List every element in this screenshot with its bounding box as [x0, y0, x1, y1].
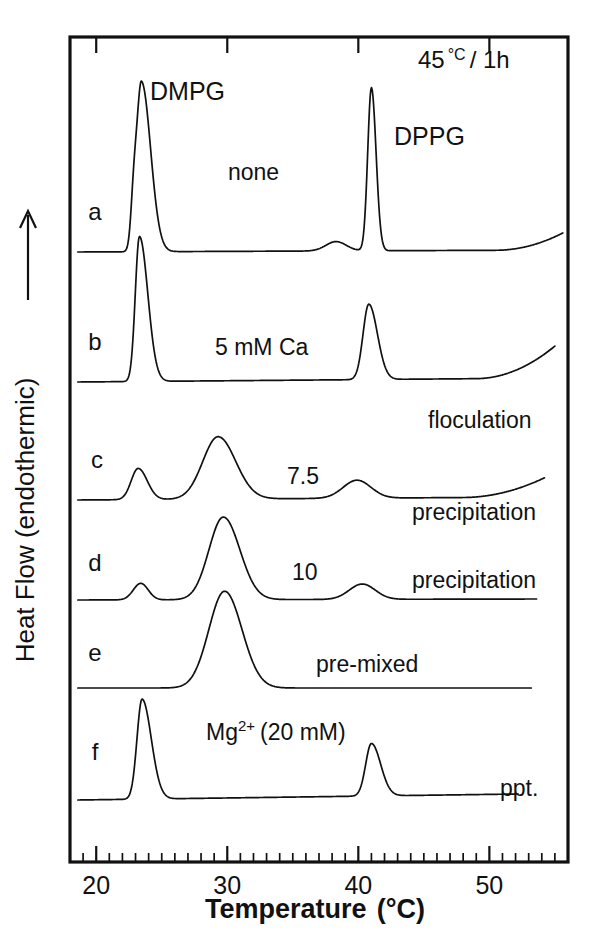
- curve-label-b: b: [88, 328, 101, 355]
- x-axis-title-main: Temperature: [205, 894, 367, 924]
- curve-label-d: d: [88, 549, 101, 576]
- y-axis-title-group: Heat Flow (endothermic): [10, 211, 40, 662]
- curve-label-f: f: [92, 738, 99, 765]
- header-note-value: 45: [418, 46, 445, 73]
- species-label-dppg: DPPG: [394, 122, 465, 150]
- species-label-dmpg: DMPG: [150, 77, 225, 105]
- annotation-pre-mixed: pre-mixed: [316, 651, 418, 677]
- annotation-7-5: 7.5: [287, 463, 319, 489]
- thermogram-traces: [78, 81, 563, 800]
- annotation-ppt: ppt.: [500, 775, 538, 801]
- curve-label-e: e: [88, 639, 101, 666]
- annotation-5mm-ca: 5 mM Ca: [215, 334, 309, 360]
- x-axis-title-unit: (°C): [377, 894, 425, 924]
- header-note-degree-sup: °C: [448, 46, 466, 63]
- annotation-precipitation-c: precipitation: [412, 499, 536, 525]
- y-axis-arrow-icon: [20, 211, 36, 300]
- header-note: 45°C/ 1h: [418, 46, 510, 73]
- x-axis-ticks-bottom: [83, 846, 555, 862]
- dsc-figure: 20304050 45°C/ 1h DMPG DPPG a b c d e f …: [0, 0, 596, 931]
- x-tick-label-20: 20: [82, 871, 110, 899]
- trace-b: [78, 236, 555, 382]
- annotation-magnesium: Mg2+(20 mM): [206, 717, 346, 745]
- annotation-floculation: floculation: [428, 407, 532, 433]
- annotation-10: 10: [292, 559, 318, 585]
- x-axis-title: Temperature(°C): [205, 894, 425, 924]
- annotation-magnesium-conc: (20 mM): [260, 719, 346, 745]
- curve-label-a: a: [88, 198, 102, 225]
- y-axis-title: Heat Flow (endothermic): [10, 378, 40, 663]
- annotation-magnesium-base: Mg: [206, 719, 238, 745]
- curve-label-c: c: [91, 446, 103, 473]
- annotation-precipitation-d: precipitation: [412, 567, 536, 593]
- header-note-time: / 1h: [470, 46, 510, 73]
- annotation-none: none: [228, 159, 279, 185]
- trace-e: [78, 591, 531, 688]
- thermogram-plot: 20304050 45°C/ 1h DMPG DPPG a b c d e f …: [0, 0, 596, 931]
- trace-f: [78, 699, 518, 800]
- x-tick-label-50: 50: [475, 871, 503, 899]
- trace-a: [78, 81, 563, 252]
- annotation-magnesium-sup: 2+: [238, 717, 255, 734]
